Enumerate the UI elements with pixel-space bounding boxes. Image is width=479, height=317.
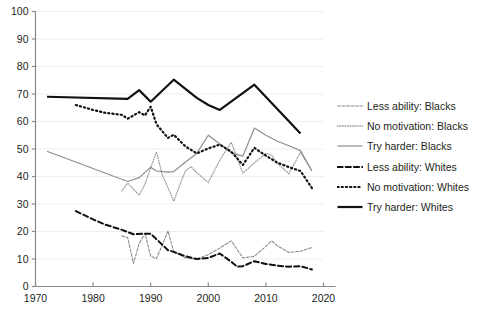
legend-item[interactable]: Less ability: Whites xyxy=(337,157,479,177)
legend-item-label: No motivation: Blacks xyxy=(367,120,468,132)
y-axis-label: 80 xyxy=(17,60,29,72)
legend-line-swatch-icon xyxy=(337,120,363,132)
y-axis-label: 20 xyxy=(17,225,29,237)
legend-line-swatch-icon xyxy=(337,100,363,112)
x-axis-labels: 197019801990200020102020 xyxy=(24,292,336,304)
y-axis-label: 60 xyxy=(17,115,29,127)
x-axis-label: 2020 xyxy=(312,292,336,304)
series-line-3 xyxy=(76,211,312,269)
x-axis-label: 1970 xyxy=(24,292,48,304)
legend-item-label: No motivation: Whites xyxy=(367,181,469,193)
x-axis-label: 2000 xyxy=(197,292,221,304)
legend-item[interactable]: Try harder: Whites xyxy=(337,197,479,217)
y-axis-label: 90 xyxy=(17,33,29,45)
legend-item[interactable]: Try harder: Blacks xyxy=(337,136,479,156)
x-axis-label: 1980 xyxy=(81,292,105,304)
legend-line-swatch-icon xyxy=(337,201,363,213)
x-axis-label: 2010 xyxy=(254,292,278,304)
legend-item[interactable]: Less ability: Blacks xyxy=(337,96,479,116)
y-axis-label: 40 xyxy=(17,170,29,182)
legend-item-label: Try harder: Whites xyxy=(367,201,453,213)
gridlines xyxy=(36,12,324,260)
series-line-2 xyxy=(47,128,312,181)
data-series xyxy=(47,80,312,270)
y-axis-labels: 1009080706050403020100 xyxy=(11,5,29,292)
legend-line-swatch-icon xyxy=(337,181,363,193)
y-axis-label: 70 xyxy=(17,88,29,100)
chart-legend: Less ability: BlacksNo motivation: Black… xyxy=(337,96,479,217)
y-axis-label: 100 xyxy=(11,5,29,17)
legend-line-swatch-icon xyxy=(337,140,363,152)
y-axis-label: 0 xyxy=(23,280,29,292)
legend-item-label: Less ability: Blacks xyxy=(367,100,456,112)
series-line-1 xyxy=(122,142,312,201)
chart-container: 1009080706050403020100 19701980199020002… xyxy=(0,0,479,317)
legend-item-label: Less ability: Whites xyxy=(367,161,457,173)
legend-item[interactable]: No motivation: Whites xyxy=(337,177,479,197)
y-axis-label: 50 xyxy=(17,143,29,155)
legend-item[interactable]: No motivation: Blacks xyxy=(337,116,479,136)
y-axis-label: 30 xyxy=(17,198,29,210)
legend-line-swatch-icon xyxy=(337,161,363,173)
x-axis-label: 1990 xyxy=(139,292,163,304)
legend-item-label: Try harder: Blacks xyxy=(367,140,452,152)
y-axis-label: 10 xyxy=(17,253,29,265)
